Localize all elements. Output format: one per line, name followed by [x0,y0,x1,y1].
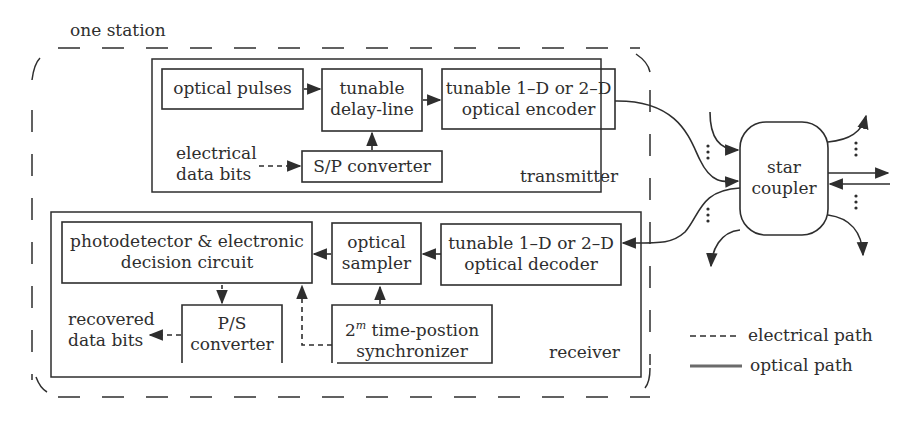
decoder-label: tunable 1–D or 2–D optical decoder [441,233,621,275]
legend-optical-label: optical path [750,355,853,376]
optical-pulses-label: optical pulses [162,78,303,99]
electrical-data-bits-label: electrical data bits [176,143,257,185]
receiver-label: receiver [549,342,620,363]
sampler-label: optical sampler [332,232,421,274]
transmitter-label: transmitter [520,166,618,187]
delay-line-label: tunable delay-line [322,78,422,120]
ps-converter-label: P/S converter [182,313,282,355]
encoder-label: tunable 1–D or 2–D optical encoder [442,78,615,120]
legend-electrical-label: electrical path [748,325,873,346]
station-label: one station [70,20,166,41]
sp-converter-label: S/P converter [302,156,442,177]
recovered-data-bits-label: recovered data bits [68,309,155,351]
photodetector-label: photodetector & electronic decision circ… [62,231,312,273]
star-coupler-label: star coupler [740,157,828,199]
synchronizer-label: 2m time-postion synchronizer [332,315,492,362]
